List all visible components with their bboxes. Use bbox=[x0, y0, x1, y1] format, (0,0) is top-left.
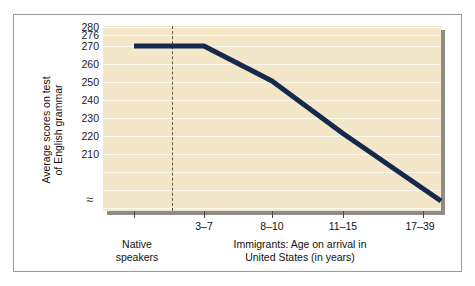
x-group-label-native-speakers: Native speakers bbox=[116, 238, 159, 264]
y-tick-270: 270 bbox=[81, 41, 99, 51]
y-axis-title-line2: of English grammar bbox=[52, 50, 64, 210]
y-tick-250: 250 bbox=[81, 77, 99, 87]
y-tick-240: 240 bbox=[81, 95, 99, 105]
x-group-immigrants-line2: United States (in years) bbox=[233, 251, 366, 264]
x-tick-mark-8-10 bbox=[272, 211, 273, 218]
y-axis-title: Average scores on test of English gramma… bbox=[40, 50, 64, 210]
score-line-series bbox=[103, 26, 441, 211]
x-tick-mark-native bbox=[134, 211, 135, 218]
x-tick-mark-17-39 bbox=[423, 211, 424, 218]
y-axis-title-line1: Average scores on test bbox=[40, 50, 52, 210]
y-tick-260: 260 bbox=[81, 59, 99, 69]
plot-area bbox=[103, 26, 441, 211]
y-tick-230: 230 bbox=[81, 113, 99, 123]
y-axis-break-icon: ≈ bbox=[86, 195, 93, 205]
x-tick-label-8-10: 8–10 bbox=[260, 220, 283, 232]
y-tick-276: 276 bbox=[81, 30, 99, 40]
y-tick-210: 210 bbox=[81, 149, 99, 159]
x-tick-label-17-39: 17–39 bbox=[405, 220, 434, 232]
x-tick-label-11-15: 11–15 bbox=[329, 220, 357, 232]
x-group-immigrants-line1: Immigrants: Age on arrival in bbox=[233, 238, 366, 251]
x-tick-label-3-7: 3–7 bbox=[195, 220, 213, 232]
x-tick-mark-11-15 bbox=[343, 211, 344, 218]
x-tick-mark-3-7 bbox=[204, 211, 205, 218]
plot-shadow-right bbox=[441, 30, 445, 215]
plot-shadow-bottom bbox=[107, 211, 445, 215]
x-group-native-line1: Native bbox=[116, 238, 159, 251]
x-group-label-immigrants: Immigrants: Age on arrival in United Sta… bbox=[233, 238, 366, 264]
y-tick-220: 220 bbox=[81, 131, 99, 141]
x-group-native-line2: speakers bbox=[116, 251, 159, 264]
figure-stage: 280 276 270 260 250 240 230 220 210 ≈ Av… bbox=[0, 0, 475, 286]
